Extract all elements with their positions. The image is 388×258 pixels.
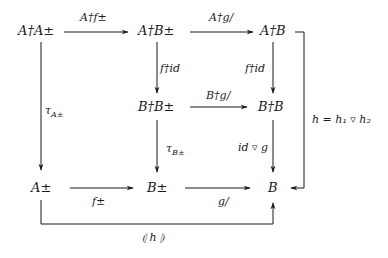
label-id-g: id ▿ g [238,142,268,153]
label-Bg: B†g/ [206,90,230,101]
label-Af: A†f± [80,12,107,23]
label-Ag: A†g/ [209,12,233,23]
tau-subscript-B: B± [172,148,185,157]
label-cata-h: ⦇ h ⦈ [142,232,164,243]
arrow-layer [0,0,388,258]
node-AdagB: A†B [260,24,285,37]
node-B: B [268,181,278,194]
label-fid-mid: f†id [160,63,180,74]
node-B-pm: B± [147,181,167,194]
node-BdagB-pm: B†B± [138,100,175,113]
label-f-pm: f± [92,196,105,207]
node-AdagB-pm: A†B± [138,24,174,37]
node-BdagB: B†B [258,100,284,113]
label-h-equation: h = h₁ ▿ h₂ [312,114,371,125]
label-fid-right: f†id [245,63,265,74]
node-AdagA: A†A± [18,24,54,37]
arrow-cata-bracket [41,200,273,224]
arrow-h-bracket [291,32,304,188]
label-tauA: τA± [45,105,64,119]
label-tauB: τB± [166,143,185,157]
label-g-slash: g/ [218,196,229,207]
tau-subscript-A: A± [51,110,63,119]
node-A-pm: A± [31,181,51,194]
